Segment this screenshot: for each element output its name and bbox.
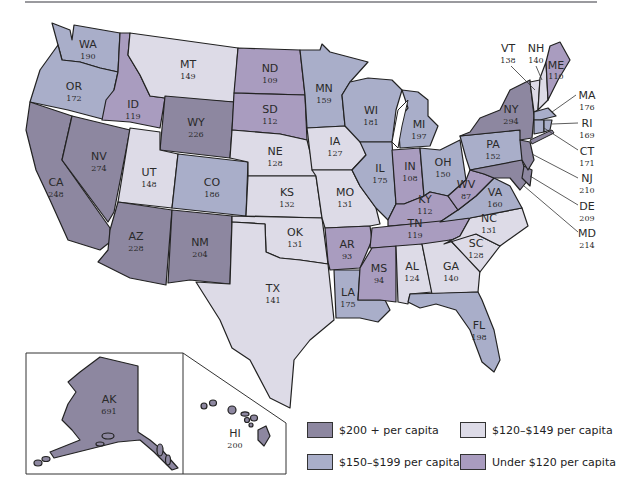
label-MI: MI	[413, 118, 426, 131]
svg-text:138: 138	[500, 56, 515, 65]
hi-island-lanai	[245, 418, 250, 423]
legend-label-200-plus: $200 + per capita	[339, 424, 439, 437]
label-ME: ME	[548, 59, 564, 72]
svg-text:87: 87	[461, 192, 471, 201]
legend-label-120-149: $120–$149 per capita	[492, 424, 613, 437]
svg-text:159: 159	[316, 96, 331, 105]
ak-panhandle-island	[157, 444, 163, 456]
label-OH: OH	[435, 156, 452, 169]
svg-text:152: 152	[485, 152, 500, 161]
svg-text:186: 186	[204, 190, 219, 199]
label-AZ: AZ	[128, 230, 144, 243]
svg-text:108: 108	[402, 174, 417, 183]
label-TN: TN	[407, 217, 423, 230]
label-WV: WV	[457, 178, 476, 191]
label-SC: SC	[469, 237, 484, 250]
label-NY: NY	[504, 103, 519, 116]
label-CT: CT	[580, 145, 595, 158]
label-NV: NV	[91, 150, 107, 163]
svg-text:131: 131	[481, 226, 496, 235]
svg-text:150: 150	[435, 170, 450, 179]
svg-text:228: 228	[128, 244, 143, 253]
label-GA: GA	[443, 260, 460, 273]
legend-item-150-199: $150–$199 per capita	[307, 454, 460, 470]
svg-text:110: 110	[548, 72, 563, 81]
svg-text:181: 181	[363, 118, 378, 127]
label-PA: PA	[486, 138, 500, 151]
legend-item-120-149: $120–$149 per capita	[460, 422, 613, 438]
ak-island	[96, 442, 104, 446]
legend-item-under-120: Under $120 per capita	[460, 454, 616, 470]
label-HI: HI	[229, 427, 241, 440]
label-WA: WA	[79, 38, 97, 51]
legend-swatch-200-plus	[307, 422, 333, 438]
label-AR: AR	[339, 238, 355, 251]
kodiak-island	[102, 433, 114, 439]
svg-text:149: 149	[180, 72, 195, 81]
inset-alaska-hawaii: AK691 HI200	[26, 353, 286, 474]
state-CT[interactable]	[534, 120, 544, 134]
label-VA: VA	[488, 186, 503, 199]
label-UT: UT	[142, 166, 157, 179]
label-LA: LA	[341, 286, 355, 299]
label-FL: FL	[473, 319, 486, 332]
us-choropleth-map: WA190 OR172 CA248 NV274 ID119 MT149 WY22…	[0, 0, 622, 493]
svg-text:94: 94	[374, 276, 384, 285]
label-CA: CA	[48, 176, 64, 189]
label-MS: MS	[371, 262, 387, 275]
hi-island-kauai	[210, 400, 217, 406]
hi-island-niihau	[201, 403, 207, 409]
label-OK: OK	[287, 226, 304, 239]
svg-text:140: 140	[528, 56, 543, 65]
label-MT: MT	[180, 58, 196, 71]
label-RI: RI	[582, 117, 593, 130]
svg-text:131: 131	[287, 240, 302, 249]
label-ND: ND	[262, 62, 279, 75]
svg-text:210: 210	[579, 186, 594, 195]
svg-text:160: 160	[487, 200, 502, 209]
hi-island-molokai	[241, 412, 249, 416]
svg-text:112: 112	[262, 117, 277, 126]
svg-text:140: 140	[443, 274, 458, 283]
label-MA: MA	[578, 89, 595, 102]
label-IL: IL	[375, 162, 385, 175]
label-IN: IN	[404, 160, 415, 173]
svg-text:141: 141	[265, 296, 280, 305]
legend-label-under-120: Under $120 per capita	[492, 456, 616, 469]
label-KY: KY	[418, 193, 432, 206]
svg-text:132: 132	[279, 200, 294, 209]
hi-island-kahoolawe	[249, 423, 253, 427]
legend-label-150-199: $150–$199 per capita	[339, 456, 460, 469]
label-MO: MO	[336, 186, 354, 199]
label-DE: DE	[579, 200, 594, 213]
state-FL[interactable]	[408, 292, 500, 372]
label-SD: SD	[262, 103, 277, 116]
label-MD: MD	[578, 227, 596, 240]
legend-item-200-plus: $200 + per capita	[307, 422, 439, 438]
svg-text:128: 128	[468, 251, 483, 260]
label-TX: TX	[265, 282, 281, 295]
label-OR: OR	[66, 80, 83, 93]
svg-text:691: 691	[101, 407, 116, 416]
ak-panhandle-island	[166, 455, 171, 465]
svg-text:119: 119	[407, 231, 422, 240]
label-AK: AK	[102, 393, 118, 406]
svg-text:131: 131	[337, 200, 352, 209]
svg-text:171: 171	[579, 159, 594, 168]
legend-swatch-120-149	[460, 422, 486, 438]
svg-text:175: 175	[340, 300, 355, 309]
label-VT: VT	[501, 42, 516, 55]
svg-text:112: 112	[417, 207, 432, 216]
svg-text:119: 119	[125, 112, 140, 121]
label-NC: NC	[481, 212, 497, 225]
label-CO: CO	[204, 176, 221, 189]
label-WI: WI	[364, 104, 378, 117]
label-WY: WY	[187, 116, 205, 129]
label-NM: NM	[191, 236, 209, 249]
aleutian-island	[34, 460, 42, 466]
svg-text:204: 204	[192, 250, 207, 259]
label-IA: IA	[330, 135, 341, 148]
hi-island-oahu	[228, 406, 236, 414]
legend-swatch-under-120	[460, 454, 486, 470]
state-NY[interactable]	[460, 80, 534, 140]
